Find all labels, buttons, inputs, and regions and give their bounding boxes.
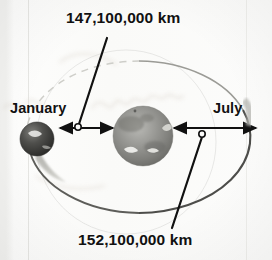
earth-january <box>20 122 66 182</box>
aphelion-distance-label: 152,100,000 km <box>78 232 192 248</box>
month-label-july: July <box>213 101 242 116</box>
leader-dot-bottom <box>199 131 205 137</box>
leader-dot-top <box>75 124 81 130</box>
month-label-january: January <box>10 101 66 116</box>
leader-line-top <box>79 38 107 124</box>
diagram-artwork <box>0 0 272 260</box>
perihelion-distance-label: 147,100,000 km <box>66 10 180 26</box>
leader-line-bottom <box>172 137 202 228</box>
orbit-diagram-figure: 147,100,000 km 152,100,000 km January Ju… <box>0 0 272 260</box>
sun-body <box>113 106 173 166</box>
